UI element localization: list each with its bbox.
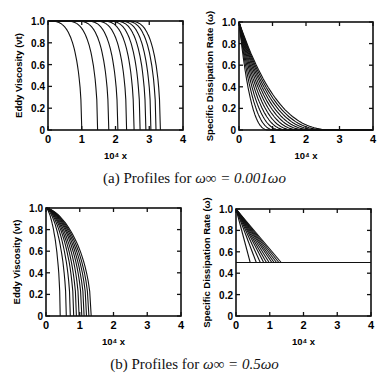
x-tick-label: 0 <box>233 319 239 331</box>
y-tick-label: 0 <box>39 125 45 136</box>
y-tick-label: 0.6 <box>222 60 236 71</box>
curve <box>48 21 160 130</box>
plot-a-left: 0123400.20.40.60.81.010⁴ xEddy Viscosity… <box>13 16 187 161</box>
x-tick-label: 2 <box>110 319 116 331</box>
x-tick-label: 0 <box>45 133 51 145</box>
x-tick-label: 1 <box>269 133 275 145</box>
caption-b-prefix: (b) Profiles for <box>110 356 203 372</box>
x-axis-label: 10⁴ x <box>292 336 316 347</box>
y-tick-label: 1.0 <box>219 204 233 215</box>
y-axis-label: Eddy Viscosity (νt) <box>11 220 22 305</box>
y-tick-label: 0 <box>227 311 233 322</box>
x-axis-label: 10⁴ x <box>104 150 128 161</box>
x-tick-label: 4 <box>368 319 375 331</box>
y-axis-label: Specific Dissipation Rate (ω) <box>204 11 215 142</box>
y-tick-label: 1.0 <box>222 17 236 28</box>
caption-a-math: ω∞ = 0.001ωo <box>195 170 286 186</box>
plot-a-right: 0123400.20.40.60.81.010⁴ xSpecific Dissi… <box>204 11 377 161</box>
y-tick-label: 0.4 <box>29 268 43 279</box>
curve <box>48 21 134 130</box>
y-tick-label: 0.6 <box>31 60 45 71</box>
x-tick-label: 3 <box>336 133 342 145</box>
y-tick-label: 0 <box>230 125 236 136</box>
y-tick-label: 0.8 <box>219 225 233 236</box>
y-tick-label: 1.0 <box>31 16 45 27</box>
caption-a-prefix: (a) Profiles for <box>103 170 195 186</box>
curve <box>48 21 98 130</box>
x-tick-label: 2 <box>300 319 306 331</box>
plot-b-right: 0123400.20.40.60.81.010⁴ xSpecific Dissi… <box>201 197 375 347</box>
plot-b-left: 0123400.20.40.60.81.010⁴ xEddy Viscosity… <box>11 203 185 347</box>
x-tick-label: 0 <box>43 319 49 331</box>
x-tick-label: 3 <box>146 133 152 145</box>
curve <box>239 22 373 130</box>
curves <box>48 21 160 130</box>
y-tick-label: 1.0 <box>29 203 43 214</box>
x-tick-label: 1 <box>79 133 85 145</box>
x-tick-label: 2 <box>112 133 118 145</box>
y-tick-label: 0.6 <box>219 247 233 258</box>
y-tick-label: 0.8 <box>31 38 45 49</box>
x-tick-label: 0 <box>236 133 242 145</box>
x-tick-label: 4 <box>180 133 187 145</box>
curves <box>46 208 91 316</box>
y-tick-label: 0.6 <box>29 246 43 257</box>
x-tick-label: 1 <box>77 319 83 331</box>
y-tick-label: 0.4 <box>219 268 233 279</box>
curves <box>239 22 373 130</box>
curve <box>48 21 118 130</box>
y-tick-label: 0.2 <box>219 290 233 301</box>
curves <box>236 209 371 263</box>
y-axis-label: Eddy Viscosity (νt) <box>13 33 24 118</box>
y-tick-label: 0.4 <box>222 82 236 93</box>
x-tick-label: 2 <box>303 133 309 145</box>
y-tick-label: 0.8 <box>29 225 43 236</box>
curve <box>48 21 151 130</box>
y-tick-label: 0.2 <box>31 103 45 114</box>
caption-a: (a) Profiles for ω∞ = 0.001ωo <box>0 170 389 187</box>
y-tick-label: 0.2 <box>222 103 236 114</box>
y-tick-label: 0.8 <box>222 39 236 50</box>
y-axis-label: Specific Dissipation Rate (ω) <box>201 197 212 328</box>
y-tick-label: 0 <box>37 311 43 322</box>
x-axis-label: 10⁴ x <box>102 336 126 347</box>
caption-b: (b) Profiles for ω∞ = 0.5ωo <box>0 356 389 373</box>
x-tick-label: 4 <box>370 133 377 145</box>
x-tick-label: 3 <box>334 319 340 331</box>
curve <box>48 21 82 130</box>
figure-canvas: 0123400.20.40.60.81.010⁴ xEddy Viscosity… <box>0 0 389 385</box>
x-tick-label: 4 <box>178 319 185 331</box>
y-tick-label: 0.4 <box>31 81 45 92</box>
x-tick-label: 1 <box>267 319 273 331</box>
x-axis-label: 10⁴ x <box>294 150 318 161</box>
y-tick-label: 0.2 <box>29 289 43 300</box>
caption-b-math: ω∞ = 0.5ωo <box>203 356 279 372</box>
x-tick-label: 3 <box>144 319 150 331</box>
